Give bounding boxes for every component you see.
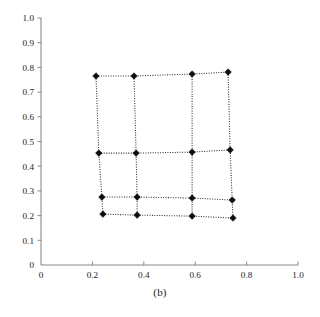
mesh-row-edge	[103, 214, 233, 218]
plot-svg: 00.10.20.30.40.50.60.70.80.91.000.20.40.…	[0, 0, 320, 317]
mesh-row-edge	[102, 197, 232, 200]
y-tick-label: 0.2	[23, 211, 35, 221]
mesh-node-marker	[131, 73, 138, 80]
mesh-node-marker	[189, 195, 196, 202]
figure-panel: 00.10.20.30.40.50.60.70.80.91.000.20.40.…	[0, 0, 320, 317]
x-tick-label: 0.4	[138, 270, 150, 280]
mesh-node-marker	[93, 73, 100, 80]
y-tick-label: 1.0	[23, 13, 35, 23]
mesh-nodes	[93, 69, 237, 222]
y-tick-label: 0.4	[23, 162, 35, 172]
mesh-node-marker	[189, 149, 196, 156]
mesh-node-marker	[189, 71, 196, 78]
mesh-node-marker	[229, 197, 236, 204]
mesh-edges	[96, 72, 233, 218]
mesh-column-edge	[228, 72, 233, 218]
y-tick-label: 0	[29, 260, 34, 270]
mesh-node-marker	[133, 150, 140, 157]
mesh-row-edge	[96, 72, 228, 76]
mesh-node-marker	[134, 212, 141, 219]
y-tick-label: 0.3	[23, 186, 35, 196]
figure-caption: (b)	[0, 286, 320, 298]
mesh-row-edge	[99, 150, 230, 153]
mesh-node-marker	[189, 213, 196, 220]
axes: 00.10.20.30.40.50.60.70.80.91.000.20.40.…	[23, 13, 305, 280]
y-tick-label: 0.6	[23, 112, 35, 122]
x-tick-label: 0.2	[87, 270, 99, 280]
mesh-node-marker	[99, 194, 106, 201]
y-tick-label: 0.7	[23, 87, 35, 97]
mesh-node-marker	[96, 150, 103, 157]
mesh-node-marker	[100, 211, 107, 218]
x-tick-label: 1.0	[292, 270, 304, 280]
x-tick-label: 0.6	[189, 270, 201, 280]
y-tick-label: 0.8	[23, 63, 35, 73]
mesh-node-marker	[134, 194, 141, 201]
mesh-node-marker	[225, 69, 232, 76]
mesh-node-marker	[230, 215, 237, 222]
mesh-column-edge	[96, 76, 103, 214]
y-tick-label: 0.5	[23, 137, 35, 147]
y-tick-label: 0.1	[23, 236, 35, 246]
x-tick-label: 0.8	[241, 270, 253, 280]
mesh-node-marker	[227, 147, 234, 154]
y-tick-label: 0.9	[23, 38, 35, 48]
x-tick-label: 0	[39, 270, 44, 280]
